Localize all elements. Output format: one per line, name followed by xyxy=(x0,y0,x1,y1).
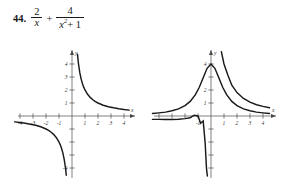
x-tick-label: 1 xyxy=(84,120,87,126)
plus-operator: + xyxy=(46,12,52,24)
problem-statement: 44. 2 x + 4 x2+ 1 xyxy=(13,6,85,30)
x-axis-arrow xyxy=(130,114,135,118)
graph-one-svg: -4-3-2-11234 1234-4 x y xyxy=(14,44,139,182)
problem-number: 44. xyxy=(13,11,26,24)
curve-2-x-4-x-2-1-right-branch- xyxy=(221,52,269,108)
graph-one-axes xyxy=(18,50,135,178)
fraction-term-two: 4 x2+ 1 xyxy=(56,6,84,30)
fraction-term-one: 2 x xyxy=(31,7,42,29)
y-axis-arrow xyxy=(209,50,213,55)
curve-2-x-right-branch- xyxy=(77,54,129,110)
term-one-denominator: x xyxy=(31,17,42,29)
term-two-denominator: x2+ 1 xyxy=(56,17,84,30)
y-axis-label: y xyxy=(74,50,78,56)
x-tick-label: 2 xyxy=(236,120,239,126)
x-tick-label: 4 xyxy=(123,120,126,126)
term-two-numerator: 4 xyxy=(65,6,76,17)
graph-two-svg: -11234 124 x y xyxy=(150,44,280,182)
y-tick-label: 3 xyxy=(64,74,68,80)
x-tick-label: 3 xyxy=(248,120,252,126)
x-tick-label: 2 xyxy=(97,120,100,126)
x-axis-label: x xyxy=(271,107,275,113)
y-tick-label: 4 xyxy=(65,61,68,67)
x-axis-label: x xyxy=(130,107,134,113)
x-tick-label: 3 xyxy=(109,120,113,126)
graph-one-x-ticks: -4-3-2-11234 xyxy=(18,113,126,126)
x-tick-label: -2 xyxy=(44,120,49,126)
x-tick-label: 1 xyxy=(223,120,226,126)
y-axis-arrow xyxy=(70,50,74,55)
y-axis-label: y xyxy=(213,50,217,56)
x-axis-arrow xyxy=(271,114,276,118)
x-tick-label: -1 xyxy=(57,120,62,126)
term-one-numerator: 2 xyxy=(31,7,42,18)
x-tick-label: 4 xyxy=(262,120,265,126)
y-tick-label: 2 xyxy=(204,87,207,93)
exercise-figure: 44. 2 x + 4 x2+ 1 -4-3-2-11234 1234-4 x … xyxy=(0,0,285,187)
curve-2-x-left-branch- xyxy=(15,122,66,175)
y-tick-label: 4 xyxy=(204,61,207,67)
graph-two-container: -11234 124 x y xyxy=(150,44,280,182)
term-two-den-tail: + 1 xyxy=(67,18,81,29)
graph-one-container: -4-3-2-11234 1234-4 x y xyxy=(14,44,139,182)
y-tick-label: 1 xyxy=(65,100,68,106)
y-tick-label: 2 xyxy=(65,87,68,93)
y-tick-label: 1 xyxy=(204,100,207,106)
